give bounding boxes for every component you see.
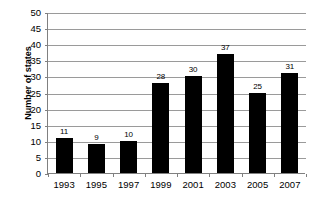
gridline [48,126,306,127]
x-tick-label: 2007 [270,180,310,190]
plot-area: 119102830372531 199319951997199920012003… [47,13,305,174]
bar-data-label: 10 [115,131,143,139]
gridline [48,94,306,95]
y-tick-mark [45,61,48,62]
gridline [48,29,306,30]
bar-data-label: 9 [82,134,110,142]
x-tick-mark [145,174,146,177]
bar-data-label: 31 [276,63,304,71]
bar [152,83,169,173]
y-tick-label: 0 [0,169,41,179]
y-tick-mark [45,13,48,14]
y-tick-label: 50 [0,8,41,18]
y-tick-label: 20 [0,105,41,115]
x-tick-mark [48,174,49,177]
y-tick-label: 25 [0,89,41,99]
y-tick-mark [45,45,48,46]
y-tick-mark [45,94,48,95]
y-tick-label: 45 [0,24,41,34]
bar [249,93,266,174]
gridline [48,45,306,46]
gridline [48,158,306,159]
y-tick-label: 10 [0,137,41,147]
y-tick-label: 30 [0,72,41,82]
y-tick-mark [45,77,48,78]
y-tick-mark [45,29,48,30]
x-tick-mark [177,174,178,177]
bar-data-label: 25 [244,83,272,91]
y-tick-mark [45,142,48,143]
y-tick-label: 40 [0,40,41,50]
bar-data-label: 30 [179,66,207,74]
x-tick-mark [274,174,275,177]
x-tick-mark [113,174,114,177]
gridline [48,110,306,111]
gridline [48,61,306,62]
gridline [48,13,306,14]
y-tick-mark [45,126,48,127]
x-tick-mark [242,174,243,177]
bar [185,76,202,173]
y-tick-label: 5 [0,153,41,163]
gridline [48,77,306,78]
bar-data-label: 37 [211,44,239,52]
bar [56,138,73,173]
y-tick-label: 15 [0,121,41,131]
bar-data-label: 28 [147,73,175,81]
x-tick-mark [209,174,210,177]
x-tick-mark [80,174,81,177]
y-tick-label: 35 [0,56,41,66]
y-tick-mark [45,158,48,159]
y-tick-mark [45,110,48,111]
x-tick-mark [306,174,307,177]
bar [120,141,137,173]
bar [281,73,298,173]
bar [88,144,105,173]
bar-data-label: 11 [50,128,78,136]
bar-chart-figure: Number of states 05101520253035404550 11… [0,0,314,199]
bar [217,54,234,173]
